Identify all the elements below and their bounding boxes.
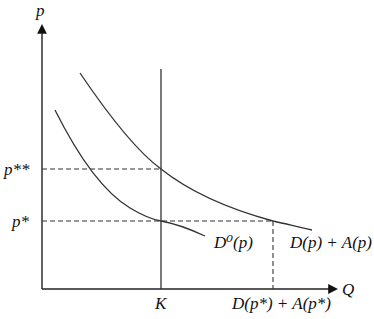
augmented-demand-curve — [80, 73, 312, 230]
y-axis-label: p — [35, 1, 45, 20]
base-demand-curve — [55, 110, 205, 236]
demand-diagram: p Q K p** p* D⁰(p) D(p) + A(p) D(p*) + A… — [0, 0, 374, 319]
base-demand-label: D⁰(p) — [213, 233, 253, 252]
p-double-star-label: p** — [3, 160, 30, 179]
capacity-label: K — [154, 294, 168, 313]
augmented-demand-label: D(p) + A(p) — [289, 233, 372, 252]
total-demand-label: D(p*) + A(p*) — [231, 294, 331, 313]
x-axis-label: Q — [342, 280, 354, 299]
p-star-label: p* — [11, 212, 30, 231]
